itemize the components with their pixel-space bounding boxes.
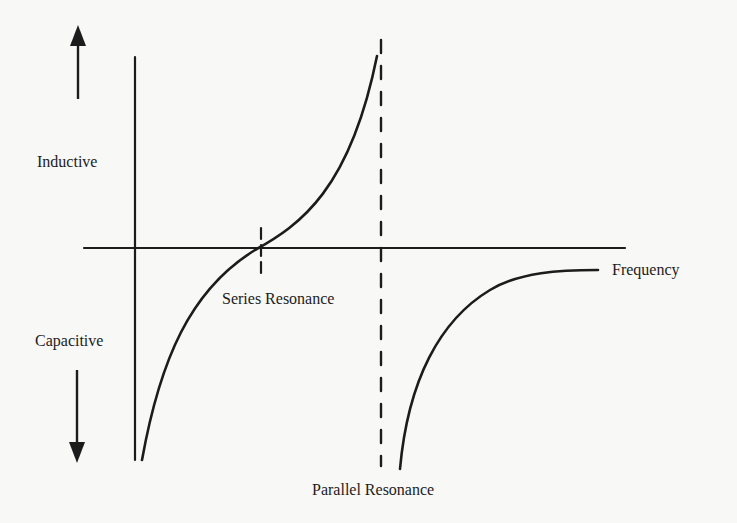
series-resonance-label: Series Resonance [222,291,334,307]
inductive-label: Inductive [37,154,97,170]
reactance-curve-upper-branch [400,270,598,469]
parallel-resonance-label: Parallel Resonance [312,482,434,498]
arrow-down-icon [69,370,85,463]
capacitive-label: Capacitive [35,333,103,349]
reactance-frequency-diagram: Inductive Capacitive Frequency Series Re… [0,0,737,523]
frequency-label: Frequency [612,262,680,278]
reactance-curve-lower-branch [142,56,377,460]
arrow-up-icon [70,25,86,99]
